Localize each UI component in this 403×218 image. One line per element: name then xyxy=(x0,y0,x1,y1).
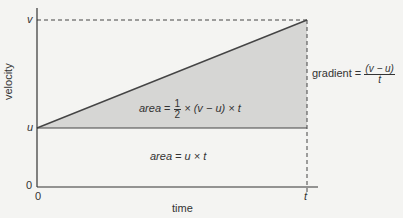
gradient-formula: gradient = (v − u)t xyxy=(312,64,395,85)
gradient-fraction: (v − u)t xyxy=(364,64,395,85)
y-axis-label: velocity xyxy=(2,63,14,100)
one-half-fraction: 12 xyxy=(174,99,182,120)
x-axis-label: time xyxy=(172,202,193,214)
triangle-area-formula: area = 12 × (v − u) × t xyxy=(139,99,241,120)
y-tick-0: 0 xyxy=(26,179,32,191)
x-tick-t: t xyxy=(304,190,307,202)
y-tick-v: v xyxy=(27,13,33,25)
rectangle-area-formula: area = u × t xyxy=(150,150,206,162)
y-tick-u: u xyxy=(27,121,33,133)
x-tick-0: 0 xyxy=(35,190,41,202)
